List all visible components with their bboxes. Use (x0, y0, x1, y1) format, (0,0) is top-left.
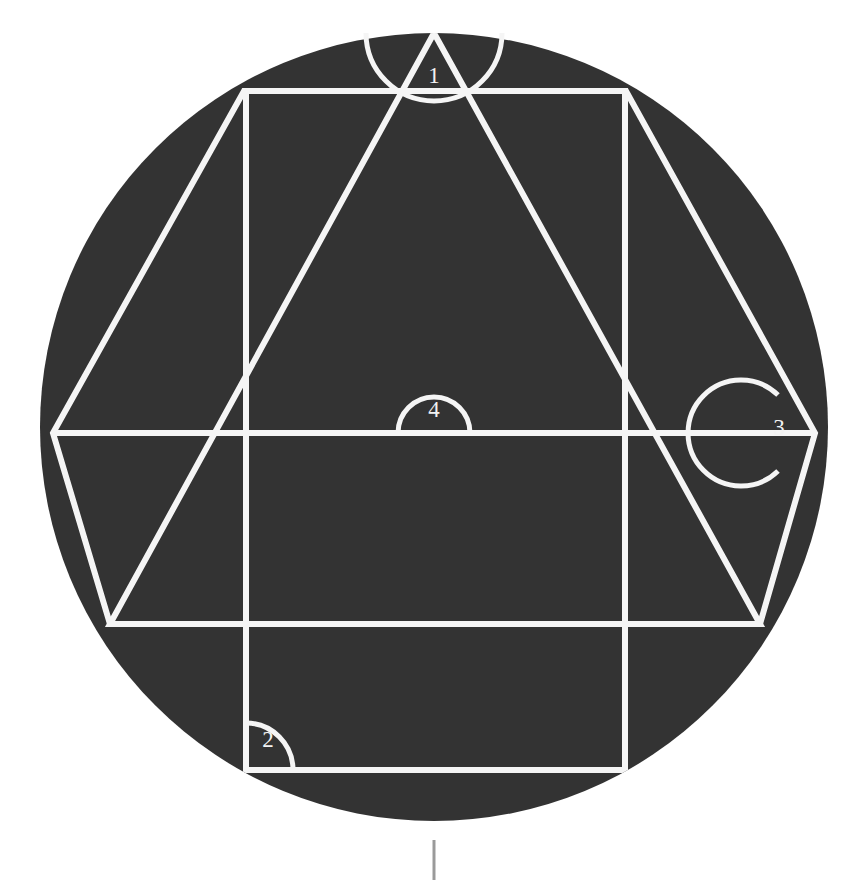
geometry-canvas: 1 2 3 4 (0, 0, 867, 890)
angle-label-3: 3 (773, 415, 785, 440)
angle-label-2: 2 (262, 727, 274, 752)
circumscribed-circle (40, 33, 828, 821)
angle-label-1: 1 (428, 63, 440, 88)
geometry-figure: 1 2 3 4 (0, 0, 867, 890)
angle-label-4: 4 (428, 397, 440, 422)
